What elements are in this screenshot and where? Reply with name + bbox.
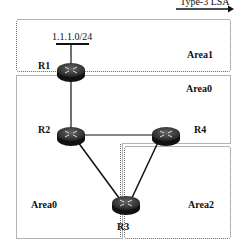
router-r2-icon[interactable] (57, 127, 85, 146)
area2-box (125, 147, 231, 239)
link-r2-r3 (75, 138, 122, 202)
link-r4-r3 (130, 138, 160, 202)
router-r1-label: R1 (38, 61, 50, 71)
network-prefix: 1.1.1.0/24 (52, 32, 92, 42)
router-r3-label: R3 (117, 222, 129, 232)
area2-label: Area2 (188, 200, 214, 210)
area0-bottom-label: Area0 (31, 200, 57, 210)
router-r4-label: R4 (194, 125, 206, 135)
legend-label: Type-3 LSA (180, 0, 230, 7)
router-r1-icon[interactable] (57, 63, 85, 82)
router-r4-icon[interactable] (152, 127, 180, 146)
router-r3-icon[interactable] (112, 196, 140, 215)
router-r2-label: R2 (38, 125, 50, 135)
area1-label: Area1 (187, 50, 213, 60)
area0-top-label: Area0 (186, 84, 212, 94)
